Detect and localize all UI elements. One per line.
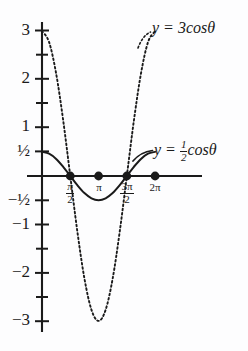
y-axis-label-half: ½ <box>4 142 30 159</box>
fraction-3pi-over-2: 3π 2 <box>120 181 133 204</box>
y-axis-label-1: 1 <box>6 117 30 134</box>
annotation-3cos-prefix: y = 3 <box>152 19 186 36</box>
fraction-denominator: 2 <box>180 151 188 163</box>
point-pi-over-2 <box>66 172 75 181</box>
y-axis-label-3: 3 <box>6 21 30 38</box>
y-axis-label-neg-1: −1 <box>0 215 30 232</box>
fraction-pi-over-2: π 2 <box>66 181 74 204</box>
y-axis-label-neg-half: −½ <box>0 191 30 208</box>
annotation-3cos-variable: θ <box>207 19 215 36</box>
annotation-halfcos-variable: θ <box>209 141 217 158</box>
fraction-numerator: 3π <box>120 181 133 192</box>
annotation-halfcos-prefix: y = <box>154 141 180 158</box>
point-2pi <box>151 172 160 181</box>
y-axis-label-neg-3: −3 <box>0 311 30 328</box>
annotation-halfcos-theta: y = 12cosθ <box>154 140 217 163</box>
x-axis-label-2pi: 2π <box>143 182 167 193</box>
x-axis-label-pi: π <box>87 182 111 193</box>
annotation-3cos-theta: y = 3cosθ <box>152 20 215 36</box>
annotation-3cos-func: cos <box>186 19 207 36</box>
fraction-numerator: π <box>66 181 74 192</box>
axis-lines <box>27 22 202 332</box>
y-axis-label-2: 2 <box>6 69 30 86</box>
plot-canvas <box>0 0 248 351</box>
annotation-halfcos-func: cos <box>187 141 208 158</box>
y-axis-label-neg-2: −2 <box>0 263 30 280</box>
fraction-denominator: 2 <box>66 193 74 205</box>
x-axis-label-3pi-over-2: 3π 2 <box>112 182 142 205</box>
fraction-denominator: 2 <box>120 193 133 205</box>
fraction-numerator: 1 <box>180 139 188 150</box>
fraction-one-half: 12 <box>180 139 188 162</box>
x-axis-label-pi-over-2: π 2 <box>56 182 84 205</box>
cosine-graph-figure: 3 2 1 ½ −½ −1 −2 −3 π 2 π 3π 2 2π y = 3c… <box>0 0 248 351</box>
point-pi <box>94 172 103 181</box>
point-3pi-over-2 <box>122 172 131 181</box>
